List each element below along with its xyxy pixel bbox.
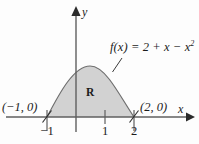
x-axis-arrow-icon	[186, 113, 195, 122]
y-axis-arrow-icon	[71, 6, 80, 16]
y-axis-label: y	[82, 6, 87, 18]
region-label-R: R	[86, 87, 94, 99]
function-label-exponent: 2	[190, 39, 194, 48]
x-tick-label-1: 1	[95, 125, 115, 138]
x-tick-label-2: 2	[124, 125, 144, 138]
point-label-left: (−1, 0)	[2, 101, 38, 114]
plot-area	[0, 0, 199, 144]
point-label-right: (2, 0)	[140, 101, 167, 114]
x-axis-label: x	[178, 103, 183, 115]
figure-parabola-region: f(x) = 2 + x − x2 (−1, 0) (2, 0) R y x −…	[0, 0, 199, 144]
x-tick-label-neg1: −1	[36, 125, 58, 138]
function-label-text: f(x) = 2 + x − x	[110, 40, 190, 54]
function-label: f(x) = 2 + x − x2	[110, 41, 194, 54]
function-label-leader-line	[113, 58, 123, 72]
